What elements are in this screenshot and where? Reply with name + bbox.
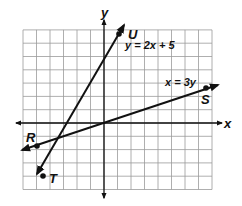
grid bbox=[23, 30, 212, 190]
point-U bbox=[116, 31, 122, 37]
point-S bbox=[203, 85, 209, 91]
line1-equation: y = 2x + 5 bbox=[124, 39, 175, 51]
point-S-label: S bbox=[201, 92, 210, 107]
point-T-label: T bbox=[49, 171, 58, 186]
coordinate-plane: x y U y = 2x + 5 x = 3y S R T bbox=[0, 0, 242, 206]
x-axis-label: x bbox=[223, 116, 232, 131]
y-axis-label: y bbox=[100, 5, 109, 20]
point-T bbox=[40, 173, 46, 179]
line-x-3y bbox=[22, 85, 218, 150]
point-R-label: R bbox=[26, 130, 36, 145]
line2-equation: x = 3y bbox=[164, 76, 197, 88]
